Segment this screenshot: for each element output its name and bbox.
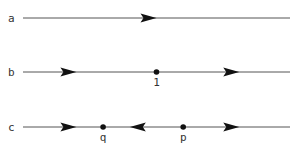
phase-line-diagram: a b 1 c qp bbox=[0, 0, 302, 150]
equilibrium-point-1 bbox=[154, 69, 160, 75]
row-c: c qp bbox=[8, 121, 290, 144]
row-b: b 1 bbox=[8, 66, 290, 89]
equilibrium-point-p bbox=[180, 124, 186, 130]
equilibrium-point-q bbox=[100, 124, 106, 130]
row-label-a: a bbox=[8, 12, 15, 25]
point-label-p: p bbox=[180, 131, 187, 144]
row-label-c: c bbox=[8, 121, 15, 134]
point-label-1: 1 bbox=[153, 76, 160, 89]
point-label-q: q bbox=[100, 131, 107, 144]
row-a: a bbox=[8, 12, 290, 25]
row-label-b: b bbox=[8, 66, 15, 79]
